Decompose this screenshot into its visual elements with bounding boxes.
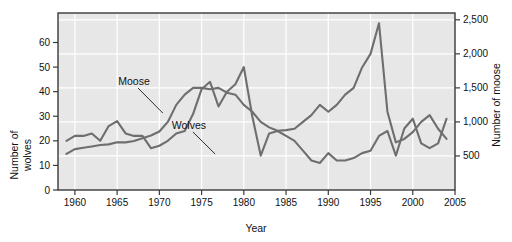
right-tick-label: 1,000 bbox=[463, 116, 488, 127]
annotation-label: Moose bbox=[118, 75, 150, 87]
x-tick-label: 1975 bbox=[190, 197, 213, 208]
left-tick-label: 20 bbox=[39, 135, 51, 146]
left-tick-label: 0 bbox=[44, 185, 50, 196]
wolves-moose-line-chart: 1960196519701975198019851990199520002005… bbox=[0, 0, 512, 242]
x-axis-tick-labels: 1960196519701975198019851990199520002005 bbox=[64, 197, 467, 208]
x-tick-label: 1990 bbox=[317, 197, 340, 208]
left-axis-tick-labels: 0102030405060 bbox=[39, 37, 51, 196]
x-tick-label: 2005 bbox=[444, 197, 467, 208]
x-tick-label: 1965 bbox=[106, 197, 129, 208]
x-axis-title: Year bbox=[245, 222, 267, 234]
x-tick-label: 1960 bbox=[64, 197, 87, 208]
left-tick-label: 10 bbox=[39, 160, 51, 171]
left-tick-label: 40 bbox=[39, 86, 51, 97]
right-tick-label: 2,000 bbox=[463, 48, 488, 59]
left-tick-label: 60 bbox=[39, 37, 51, 48]
x-tick-label: 1970 bbox=[148, 197, 171, 208]
left-axis-ticks bbox=[53, 43, 58, 191]
x-tick-label: 1985 bbox=[275, 197, 298, 208]
right-tick-label: 2,500 bbox=[463, 14, 488, 25]
right-axis-ticks bbox=[455, 20, 460, 156]
chart-figure: 1960196519701975198019851990199520002005… bbox=[0, 0, 512, 242]
annotation-label: Wolves bbox=[172, 119, 206, 131]
x-tick-label: 2000 bbox=[402, 197, 425, 208]
x-tick-label: 1995 bbox=[359, 197, 382, 208]
x-tick-label: 1980 bbox=[233, 197, 256, 208]
left-axis-title-line1: Number of bbox=[8, 130, 20, 179]
right-axis-title: Number of moose bbox=[490, 63, 502, 147]
left-axis-title-line2: wolves bbox=[21, 139, 33, 172]
x-axis-ticks bbox=[75, 190, 455, 195]
right-tick-label: 1,500 bbox=[463, 82, 488, 93]
left-tick-label: 30 bbox=[39, 111, 51, 122]
right-axis-tick-labels: 5001,0001,5002,0002,500 bbox=[463, 14, 488, 161]
left-tick-label: 50 bbox=[39, 62, 51, 73]
right-tick-label: 500 bbox=[463, 150, 480, 161]
